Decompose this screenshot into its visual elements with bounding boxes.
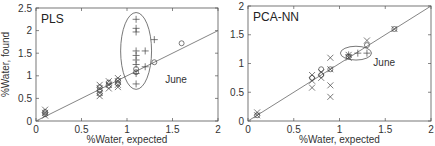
plus-marker — [151, 36, 158, 43]
plot-title: PLS — [41, 12, 64, 26]
x-marker — [391, 26, 397, 32]
circle-marker — [179, 41, 184, 46]
y-tick-label: 1.5 — [230, 29, 244, 40]
x-marker — [309, 85, 315, 91]
x-marker — [327, 55, 333, 61]
y-tick-label: 0 — [238, 116, 244, 127]
circle-marker — [310, 75, 315, 80]
x-tick-label: 2 — [215, 124, 221, 135]
y-tick-label: 2 — [26, 25, 32, 36]
x-marker — [327, 82, 333, 88]
y-tick-label: 1 — [238, 58, 244, 69]
x-marker — [327, 94, 333, 100]
identity-line — [36, 31, 218, 121]
plus-marker — [133, 80, 140, 87]
x-axis-label: %Water, expected — [87, 134, 168, 145]
y-axis-label: %Water, found — [0, 32, 11, 97]
x-tick-label: 2 — [428, 124, 434, 135]
circle-marker — [319, 67, 324, 72]
plot-title: PCA-NN — [253, 10, 299, 24]
plus-marker — [142, 63, 149, 70]
june-annotation: June — [165, 74, 187, 85]
x-marker — [327, 66, 333, 72]
y-tick-label: 0 — [26, 116, 32, 127]
x-tick-label: 1.5 — [378, 124, 392, 135]
plus-marker — [142, 47, 149, 54]
plus-marker — [363, 50, 370, 57]
plus-marker — [133, 16, 140, 23]
y-tick-label: 2.5 — [18, 3, 32, 14]
june-annotation: June — [373, 57, 395, 68]
pcann-plot: 00.511.5200.511.52PCA-NNJune%Water, expe… — [230, 1, 434, 146]
x-tick-label: 0 — [245, 124, 251, 135]
y-tick-label: 2 — [238, 1, 244, 12]
x-marker — [254, 112, 260, 118]
y-tick-label: 0.5 — [230, 87, 244, 98]
circle-marker — [97, 91, 102, 96]
scatter-figure: 00.511.5200.511.522.5PLSJune%Water, expe… — [0, 0, 435, 146]
x-tick-label: 0 — [33, 124, 39, 135]
x-axis-label: %Water, expected — [299, 134, 380, 145]
y-tick-label: 1.5 — [18, 48, 32, 59]
pls-plot: 00.511.5200.511.522.5PLSJune%Water, expe… — [0, 3, 221, 146]
y-tick-label: 0.5 — [18, 93, 32, 104]
y-tick-label: 1 — [26, 70, 32, 81]
plus-marker — [133, 28, 140, 35]
plus-marker — [133, 61, 140, 68]
x-tick-label: 1.5 — [166, 124, 180, 135]
